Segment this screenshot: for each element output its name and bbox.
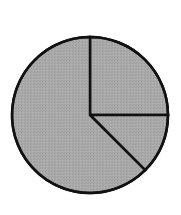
pie-chart <box>0 0 181 215</box>
